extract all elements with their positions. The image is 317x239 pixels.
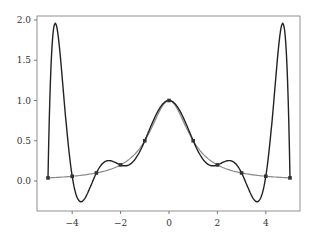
node-marker (95, 171, 99, 175)
y-tick-label: 0.5 (17, 136, 32, 146)
x-tick-label: 4 (263, 218, 269, 228)
plot-area (37, 16, 300, 211)
x-tick-label: −4 (66, 218, 80, 228)
node-marker (288, 176, 292, 180)
node-marker (46, 176, 50, 180)
node-marker (191, 139, 195, 143)
y-tick-label: 1.5 (17, 55, 32, 65)
x-tick-label: 2 (215, 218, 221, 228)
node-marker (264, 174, 268, 178)
node-marker (119, 163, 123, 167)
node-marker (70, 174, 74, 178)
y-axis: 0.00.51.01.52.0 (17, 15, 37, 186)
node-marker (167, 99, 171, 103)
x-tick-label: −2 (114, 218, 127, 228)
x-tick-label: 0 (166, 218, 172, 228)
x-axis: −4−2024 (66, 211, 269, 228)
y-tick-label: 0.0 (17, 176, 32, 186)
chart: 0.00.51.01.52.0 −4−2024 (0, 0, 317, 239)
node-marker (216, 163, 220, 167)
y-tick-label: 1.0 (17, 96, 32, 106)
node-marker (240, 171, 244, 175)
y-tick-label: 2.0 (17, 15, 32, 25)
node-marker (143, 139, 147, 143)
